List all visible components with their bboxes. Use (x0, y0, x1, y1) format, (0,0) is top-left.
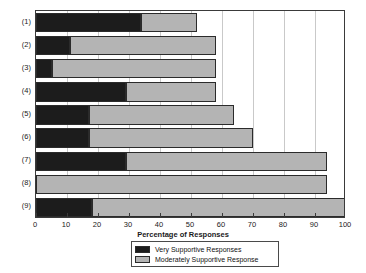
x-tick-mark (129, 213, 130, 217)
x-tick-label: 0 (33, 221, 37, 229)
x-tick-label: 60 (217, 221, 225, 229)
legend-swatch-very-supportive (135, 246, 150, 253)
bar-segment-moderately-supportive[interactable] (89, 105, 235, 124)
bar-row[interactable] (36, 105, 344, 124)
bar-segment-moderately-supportive[interactable] (52, 59, 216, 78)
bar-segment-moderately-supportive[interactable] (126, 152, 328, 171)
x-tick-label: 80 (279, 221, 287, 229)
x-tick-label: 100 (339, 221, 352, 229)
x-tick-label: 50 (186, 221, 194, 229)
bar-row[interactable] (36, 128, 344, 147)
bar-row[interactable] (36, 175, 344, 194)
legend-label-moderately-supportive: Moderately Supportive Response (155, 256, 259, 263)
y-tick-label: (1) (0, 18, 31, 26)
y-tick-label: (7) (0, 156, 31, 164)
x-tick-label: 40 (155, 221, 163, 229)
bar-segment-moderately-supportive[interactable] (89, 128, 253, 147)
plot-area (35, 10, 345, 218)
y-tick-label: (8) (0, 179, 31, 187)
bar-segment-very-supportive[interactable] (36, 13, 141, 32)
x-tick-label: 10 (62, 221, 70, 229)
legend-item-very-supportive: Very Supportive Responses (135, 244, 275, 254)
bar-segment-very-supportive[interactable] (36, 198, 92, 217)
bar-segment-very-supportive[interactable] (36, 105, 89, 124)
x-tick-mark (98, 213, 99, 217)
legend-swatch-moderately-supportive (135, 256, 150, 263)
legend-label-very-supportive: Very Supportive Responses (155, 246, 241, 253)
chart-figure: Percentage of Responses Very Supportive … (0, 0, 366, 273)
x-tick-mark (191, 213, 192, 217)
x-tick-mark (222, 213, 223, 217)
y-tick-label: (6) (0, 133, 31, 141)
legend-item-moderately-supportive: Moderately Supportive Response (135, 254, 275, 264)
bar-segment-very-supportive[interactable] (36, 59, 52, 78)
bar-row[interactable] (36, 13, 344, 32)
bar-segment-very-supportive[interactable] (36, 152, 126, 171)
x-tick-label: 20 (93, 221, 101, 229)
x-axis-title: Percentage of Responses (0, 231, 366, 239)
x-tick-label: 30 (124, 221, 132, 229)
bar-segment-very-supportive[interactable] (36, 36, 70, 55)
bar-segment-very-supportive[interactable] (36, 128, 89, 147)
y-tick-label: (2) (0, 41, 31, 49)
bar-row[interactable] (36, 59, 344, 78)
x-tick-label: 90 (310, 221, 318, 229)
x-tick-mark (160, 213, 161, 217)
y-tick-label: (9) (0, 202, 31, 210)
x-tick-mark (67, 213, 68, 217)
bar-segment-moderately-supportive[interactable] (70, 36, 216, 55)
x-tick-mark (253, 213, 254, 217)
bar-row[interactable] (36, 82, 344, 101)
x-tick-label: 70 (248, 221, 256, 229)
x-tick-mark (36, 213, 37, 217)
bar-segment-moderately-supportive[interactable] (126, 82, 216, 101)
x-tick-mark (284, 213, 285, 217)
bar-row[interactable] (36, 152, 344, 171)
bar-row[interactable] (36, 36, 344, 55)
y-tick-label: (5) (0, 110, 31, 118)
chart-legend: Very Supportive Responses Moderately Sup… (131, 241, 279, 267)
y-tick-label: (3) (0, 64, 31, 72)
bar-segment-moderately-supportive[interactable] (141, 13, 197, 32)
bar-row[interactable] (36, 198, 344, 217)
x-tick-mark (315, 213, 316, 217)
bar-segment-very-supportive[interactable] (36, 82, 126, 101)
bar-segment-moderately-supportive[interactable] (36, 175, 327, 194)
y-tick-label: (4) (0, 87, 31, 95)
